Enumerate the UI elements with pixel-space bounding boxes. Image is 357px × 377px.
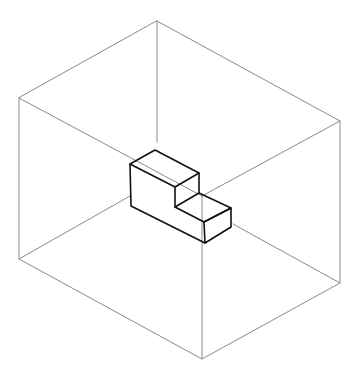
outer-box-edge-left-bottom-diagonal <box>19 196 130 259</box>
outer-box-silhouette <box>19 21 340 359</box>
block-upper-top-face <box>130 150 199 187</box>
outer-box-edge-left-top-diagonal <box>19 98 202 196</box>
block-lower-top-face <box>175 193 231 222</box>
outer-box-edge-right-bottom-diagonal <box>233 224 340 283</box>
l-shaped-block <box>130 150 231 243</box>
block-end-face <box>204 208 231 243</box>
diagram-canvas <box>0 0 357 377</box>
outer-wireframe-box <box>19 21 340 359</box>
outer-box-edge-right-top-diagonal <box>202 121 340 196</box>
